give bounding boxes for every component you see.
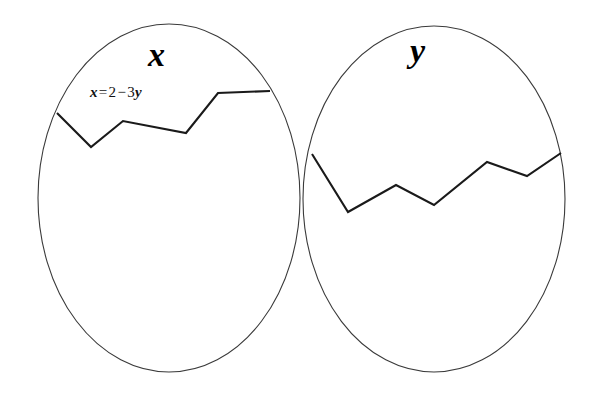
equation-term-coefficient: 3 — [127, 84, 135, 100]
ellipse-set-x — [38, 24, 300, 372]
figure-canvas: x y x=2−3y — [0, 0, 597, 400]
equation-annotation: x=2−3y — [90, 84, 142, 101]
ellipse-set-y — [303, 26, 565, 372]
venn-style-diagram — [0, 0, 597, 400]
zigzag-line-set-y — [312, 153, 561, 212]
equation-equals-sign: = — [98, 84, 109, 100]
zigzag-line-set-x — [57, 91, 270, 147]
set-label-y: y — [410, 34, 425, 68]
set-label-x: x — [148, 38, 165, 72]
equation-minus-sign: − — [116, 84, 127, 100]
equation-lhs-variable: x — [90, 84, 98, 100]
equation-rhs-variable: y — [135, 84, 142, 100]
